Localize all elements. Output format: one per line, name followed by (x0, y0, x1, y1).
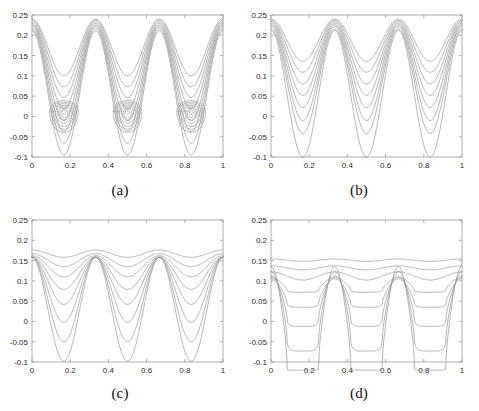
y-tick-label: 0.2 (256, 236, 268, 245)
x-tick-label: 0.2 (65, 161, 77, 170)
y-tick-label: 0.05 (12, 297, 28, 306)
y-tick-label: 0.25 (251, 11, 267, 20)
x-tick-label: 0.2 (304, 161, 316, 170)
data-curve (32, 22, 223, 97)
x-tick-label: 1 (221, 161, 226, 170)
plot-frame (271, 15, 462, 157)
plot-frame (32, 220, 223, 362)
inner-arc (115, 102, 140, 129)
y-tick-label: 0.15 (12, 52, 28, 61)
y-tick-label: 0 (24, 112, 29, 121)
y-tick-label: 0.15 (12, 257, 28, 266)
x-tick-label: 0.8 (179, 161, 191, 170)
x-tick-label: 1 (460, 161, 465, 170)
y-tick-label: 0.25 (12, 11, 28, 20)
y-tick-label: 0.1 (17, 277, 29, 286)
x-tick-label: 0.6 (141, 366, 153, 375)
x-tick-label: 0.8 (418, 366, 430, 375)
panel-d: 00.20.40.60.81-0.1-0.0500.050.10.150.20.… (239, 205, 479, 411)
data-curve (271, 21, 462, 83)
y-tick-label: 0.2 (17, 31, 29, 40)
data-curve (271, 259, 462, 261)
data-curve (271, 276, 462, 326)
inner-arc (62, 110, 66, 115)
y-tick-label: 0.05 (251, 92, 267, 101)
x-tick-label: 1 (221, 366, 226, 375)
y-tick-label: 0.15 (251, 257, 267, 266)
x-tick-label: 0 (269, 161, 274, 170)
data-curve (271, 267, 462, 370)
panel-d-plot: 00.20.40.60.81-0.1-0.0500.050.10.150.20.… (239, 205, 479, 387)
x-tick-label: 0.4 (103, 161, 115, 170)
y-tick-label: 0.25 (12, 216, 28, 225)
y-tick-label: 0.2 (256, 31, 268, 40)
panel-b: 00.20.40.60.81-0.1-0.0500.050.10.150.20.… (239, 0, 479, 206)
panel-c-plot: 00.20.40.60.81-0.1-0.0500.050.10.150.20.… (0, 205, 240, 387)
data-curve (32, 257, 223, 322)
data-curve (32, 257, 223, 304)
y-tick-label: 0.05 (12, 92, 28, 101)
data-curve (32, 257, 223, 341)
y-tick-label: 0.1 (17, 72, 29, 81)
panel-c: 00.20.40.60.81-0.1-0.0500.050.10.150.20.… (0, 205, 240, 411)
x-tick-label: 0.8 (418, 161, 430, 170)
y-tick-label: 0 (24, 317, 29, 326)
y-tick-label: 0.2 (17, 236, 29, 245)
y-tick-label: 0.1 (256, 72, 268, 81)
panel-c-caption: (c) (0, 385, 240, 402)
plot-frame (32, 15, 223, 157)
y-tick-label: 0.1 (256, 277, 268, 286)
y-tick-label: -0.05 (10, 133, 29, 142)
x-tick-label: 0 (30, 161, 35, 170)
inner-arc (189, 110, 193, 115)
y-tick-label: -0.1 (253, 358, 267, 367)
data-curve (32, 250, 223, 257)
y-tick-label: 0.15 (251, 52, 267, 61)
x-tick-label: 0.6 (380, 161, 392, 170)
x-tick-label: 0.2 (65, 366, 77, 375)
y-tick-label: 0.05 (251, 297, 267, 306)
y-tick-label: -0.05 (249, 338, 268, 347)
data-curve (271, 19, 462, 61)
data-curve (271, 20, 462, 72)
y-tick-label: 0.25 (251, 216, 267, 225)
data-curve (271, 272, 462, 352)
x-tick-label: 0 (30, 366, 35, 375)
y-tick-label: 0 (263, 112, 268, 121)
plot-frame (271, 220, 462, 362)
x-tick-label: 1 (460, 366, 465, 375)
data-curve (271, 279, 462, 307)
data-curve (32, 257, 223, 289)
data-curve (32, 257, 223, 361)
y-tick-label: 0 (263, 317, 268, 326)
x-tick-label: 0.8 (179, 366, 191, 375)
panel-b-caption: (b) (239, 182, 479, 199)
panel-a: 00.20.40.60.81-0.1-0.0500.050.10.150.20.… (0, 0, 240, 206)
data-curve (32, 19, 223, 76)
data-curve (32, 20, 223, 87)
x-tick-label: 0.6 (141, 161, 153, 170)
x-tick-label: 0.4 (342, 366, 354, 375)
four-panel-figure: 00.20.40.60.81-0.1-0.0500.050.10.150.20.… (0, 0, 479, 411)
y-tick-label: -0.05 (249, 133, 268, 142)
y-tick-label: -0.1 (14, 358, 28, 367)
data-curve (271, 23, 462, 95)
x-tick-label: 0 (269, 366, 274, 375)
y-tick-label: -0.05 (10, 338, 29, 347)
y-tick-label: -0.1 (14, 153, 28, 162)
panel-a-plot: 00.20.40.60.81-0.1-0.0500.050.10.150.20.… (0, 0, 240, 182)
x-tick-label: 0.4 (342, 161, 354, 170)
panel-d-caption: (d) (239, 385, 479, 402)
y-tick-label: -0.1 (253, 153, 267, 162)
inner-arc (125, 110, 129, 115)
panel-b-plot: 00.20.40.60.81-0.1-0.0500.050.10.150.20.… (239, 0, 479, 182)
panel-a-caption: (a) (0, 182, 240, 199)
data-curve (271, 266, 462, 270)
data-curve (271, 272, 462, 280)
inner-arc (52, 102, 77, 129)
data-curve (32, 254, 223, 267)
data-curve (271, 26, 462, 120)
x-tick-label: 0.2 (304, 366, 316, 375)
data-curve (32, 31, 223, 155)
x-tick-label: 0.4 (103, 366, 115, 375)
